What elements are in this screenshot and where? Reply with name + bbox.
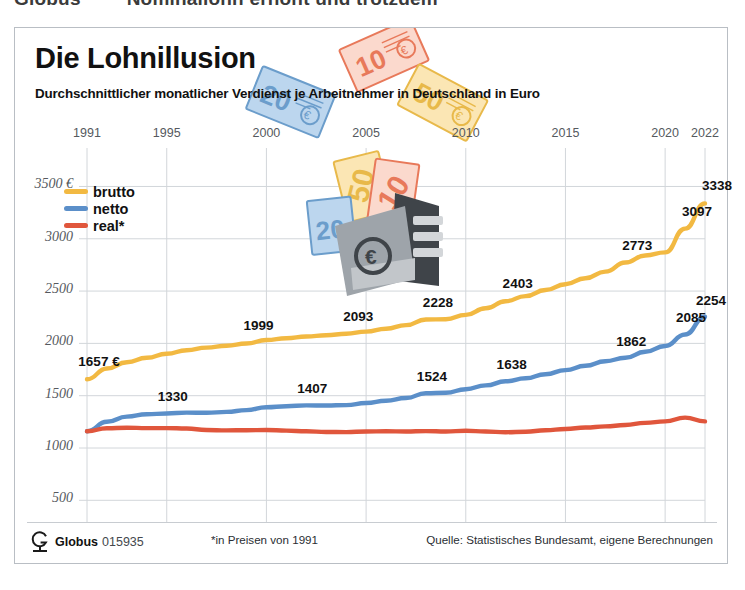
x-axis-tick-label: 2022 [691, 126, 719, 140]
chart-subtitle: Durchschnittlicher monatlicher Verdienst… [35, 86, 540, 101]
y-axis-tick-label: 1000 [15, 438, 73, 454]
x-axis-tick-label: 2020 [651, 126, 679, 140]
globus-number: 015935 [102, 535, 144, 549]
data-point-label-brutto: 2773 [622, 238, 652, 253]
legend-label-real: real* [93, 218, 124, 234]
x-axis-tick-label: 2005 [352, 126, 380, 140]
legend-swatch-brutto [64, 189, 88, 194]
x-axis-tick-label: 2000 [253, 126, 281, 140]
legend-item-brutto[interactable]: brutto [64, 183, 135, 200]
data-point-label-netto: 1524 [417, 369, 447, 384]
y-axis-tick-label: 500 [15, 490, 73, 506]
series-line-real* [87, 418, 705, 433]
x-axis-tick-label: 1991 [73, 126, 101, 140]
globus-logo: Globus 015935 [29, 530, 144, 554]
data-point-label-netto: 1407 [297, 381, 327, 396]
x-axis-tick-label: 2010 [452, 126, 480, 140]
data-point-label-netto: 2085 [676, 310, 706, 325]
page-header-left: Globus [14, 0, 81, 9]
x-axis-tick-label: 1995 [153, 126, 181, 140]
x-axis-tick-label: 2015 [552, 126, 580, 140]
page-header-text: GlobusNominallohn erhöht und trotzdem [14, 0, 438, 10]
legend-item-netto[interactable]: netto [64, 200, 135, 217]
y-axis-tick-label: 2000 [15, 333, 73, 349]
legend-swatch-netto [64, 206, 88, 211]
footer-divider [27, 522, 717, 523]
page-header-right: Nominallohn erhöht und trotzdem [127, 0, 438, 9]
globus-globe-icon [29, 530, 51, 554]
data-point-label-netto: 1330 [158, 389, 188, 404]
legend-label-brutto: brutto [93, 184, 135, 200]
data-point-label-brutto: 3338 [702, 178, 732, 193]
data-point-label-netto: 1638 [497, 357, 527, 372]
chart-svg [15, 28, 729, 565]
chart-plot-area [15, 28, 729, 565]
chart-title: Die Lohnillusion [35, 42, 256, 75]
data-point-label-brutto: 3097 [682, 204, 712, 219]
series-line-netto [87, 317, 705, 431]
data-point-label-brutto: 2403 [503, 276, 533, 291]
data-point-label-brutto: 2093 [343, 309, 373, 324]
legend-item-real[interactable]: real* [64, 217, 135, 234]
chart-legend: brutto netto real* [64, 183, 135, 234]
data-point-label-netto: 2254 [696, 293, 726, 308]
infographic-card: 20 € 10 € 50 € [14, 27, 728, 564]
globus-brand: Globus [55, 535, 98, 549]
y-axis-tick-label: 2500 [15, 281, 73, 297]
footnote: *in Preisen von 1991 [211, 533, 318, 546]
data-point-label-brutto: 2228 [423, 295, 453, 310]
legend-label-netto: netto [93, 201, 128, 217]
legend-swatch-real [64, 223, 88, 228]
data-point-label-brutto: 1657 € [78, 354, 119, 369]
page-header-strip: GlobusNominallohn erhöht und trotzdem [0, 0, 745, 16]
source-note: Quelle: Statistisches Bundesamt, eigene … [426, 533, 713, 546]
data-point-label-netto: 1862 [616, 334, 646, 349]
y-axis-tick-label: 1500 [15, 386, 73, 402]
data-point-label-brutto: 1999 [243, 318, 273, 333]
